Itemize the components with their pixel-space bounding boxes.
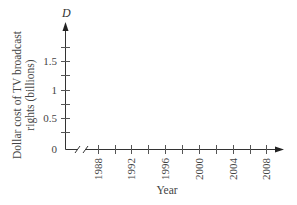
y-axis-title-line1: Dollar cost of TV broadcast [11,30,23,159]
x-axis-arrow-icon [275,147,284,153]
x-tick-label: 2000 [193,158,205,181]
x-tick-label: 1996 [159,158,171,181]
y-tick-label: 1 [52,84,58,96]
y-tick-label: 0 [52,143,58,155]
x-axis-title: Year [156,184,177,196]
y-axis-title-line2: rights (billions) [24,59,37,130]
y-variable-label: D [61,6,71,20]
y-tick-label: 1.5 [43,55,57,67]
axis-break-icon [75,146,88,153]
x-tick-label: 1988 [92,158,104,181]
x-tick-label: 2004 [227,158,239,181]
chart: D 1.5 1 0.5 0 1 [0,0,297,205]
x-tick-label: 2008 [260,158,272,181]
y-axis-arrow-icon [63,22,69,31]
y-tick-label: 0.5 [43,112,57,124]
x-tick-label: 1992 [125,158,137,180]
